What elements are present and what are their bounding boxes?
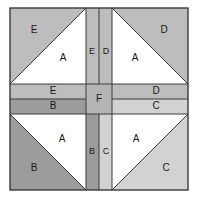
sashing-strip-c-horizontal-right: [112, 99, 188, 114]
sashing-strip-e-horizontal-left: [10, 84, 86, 99]
quadrant-top-left: E A: [10, 8, 86, 84]
label-sashing-b-horizontal-left: B: [50, 100, 57, 111]
sashing-vertical-bottom: B C: [86, 114, 112, 190]
quadrant-bottom-left: B A: [10, 114, 86, 190]
label-piece-b-bottom-left: B: [31, 162, 38, 173]
center-square-f: F: [86, 84, 112, 114]
label-sashing-b-vertical-bottom: B: [89, 146, 95, 156]
label-piece-a-top-left: A: [60, 52, 67, 63]
sashing-strip-b-horizontal-left: [10, 99, 86, 114]
label-piece-f-center: F: [96, 93, 102, 104]
label-piece-a-bottom-right: A: [133, 133, 140, 144]
label-piece-c-bottom-right: C: [162, 162, 169, 173]
quilt-block-figure: E A D A B A C A: [0, 0, 198, 202]
label-sashing-d-horizontal-right: D: [152, 85, 159, 96]
sashing-strip-d-horizontal-right: [112, 84, 188, 99]
sashing-horizontal-right: D C: [112, 84, 188, 114]
quadrant-top-right: D A: [112, 8, 188, 84]
label-piece-d-top-right: D: [160, 24, 167, 35]
label-sashing-d-vertical-top: D: [103, 46, 110, 56]
sashing-vertical-top: E D: [86, 8, 112, 84]
label-piece-a-top-right: A: [132, 52, 139, 63]
sashing-horizontal-left: E B: [10, 84, 86, 114]
label-sashing-c-horizontal-right: C: [152, 100, 159, 111]
label-sashing-c-vertical-bottom: C: [103, 146, 110, 156]
label-sashing-e-horizontal-left: E: [50, 85, 57, 96]
label-piece-a-bottom-left: A: [59, 133, 66, 144]
quadrant-bottom-right: C A: [112, 114, 188, 190]
label-piece-e-top-left: E: [31, 24, 38, 35]
quilt-block-diagram: E A D A B A C A: [0, 0, 198, 202]
label-sashing-e-vertical-top: E: [89, 46, 95, 56]
